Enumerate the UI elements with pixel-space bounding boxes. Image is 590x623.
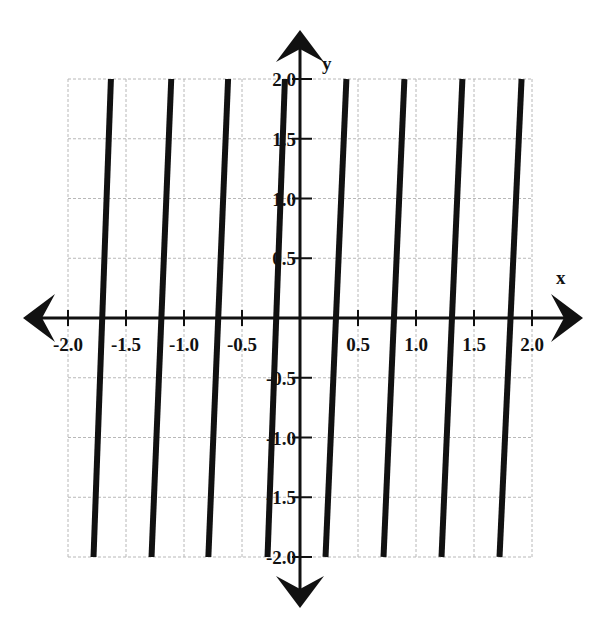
x-tick-label: -2.0 — [53, 334, 83, 355]
y-axis-label: y — [322, 53, 332, 74]
x-tick-label: -1.0 — [169, 334, 199, 355]
x-tick-label: 0.5 — [346, 334, 370, 355]
y-tick-label: -2.0 — [266, 547, 296, 568]
y-tick-label: 2.0 — [272, 69, 296, 90]
x-tick-label: 2.0 — [520, 334, 544, 355]
y-tick-label: -1.0 — [266, 428, 296, 449]
y-tick-label: 1.0 — [272, 189, 296, 210]
y-tick-label: -0.5 — [266, 368, 296, 389]
y-tick-label: 0.5 — [272, 248, 296, 269]
x-tick-label: -1.5 — [111, 334, 141, 355]
x-axis-label: x — [556, 267, 566, 288]
x-tick-label: 1.5 — [462, 334, 486, 355]
y-tick-label: 1.5 — [272, 129, 296, 150]
x-tick-label: -0.5 — [227, 334, 257, 355]
y-tick-label: -1.5 — [266, 487, 296, 508]
chart: -2.0-1.5-1.0-0.50.51.01.52.02.01.51.00.5… — [0, 0, 590, 623]
x-tick-label: 1.0 — [404, 334, 428, 355]
